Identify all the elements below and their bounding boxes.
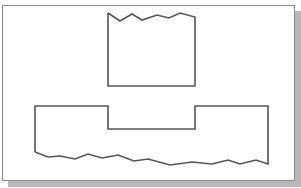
upper-block-with-break-line bbox=[108, 13, 195, 86]
lower-slotted-block-with-break-line bbox=[35, 106, 268, 165]
break-line-drawing bbox=[0, 0, 301, 188]
